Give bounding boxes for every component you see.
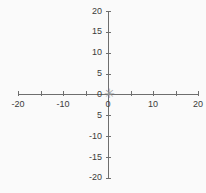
y-tick-label: -20 — [72, 173, 102, 182]
y-tick-label: 5 — [72, 69, 102, 78]
y-tick — [106, 157, 111, 158]
x-tick-label: -20 — [3, 100, 33, 109]
y-tick — [106, 136, 111, 137]
y-tick-label: 20 — [72, 7, 102, 16]
x-tick — [153, 91, 154, 96]
chart-figure: -20-1001020 201510505-10-15-20 ✳ — [0, 0, 206, 193]
y-tick-label: 15 — [72, 27, 102, 36]
x-tick — [198, 91, 199, 96]
x-tick — [176, 91, 177, 96]
y-tick-label: 5 — [72, 111, 102, 120]
data-point-marker: ✳ — [104, 87, 115, 100]
x-tick — [18, 91, 19, 96]
y-tick — [106, 115, 111, 116]
y-tick-label: 0 — [72, 90, 102, 99]
y-tick — [106, 11, 111, 12]
y-tick-label: -15 — [72, 153, 102, 162]
y-tick-label: 10 — [72, 48, 102, 57]
x-tick-label: -10 — [48, 100, 78, 109]
x-tick — [41, 91, 42, 96]
x-tick-label: 20 — [183, 100, 206, 109]
x-tick — [63, 91, 64, 96]
x-tick-label: 10 — [138, 100, 168, 109]
y-tick — [106, 53, 111, 54]
y-tick — [106, 74, 111, 75]
x-tick — [131, 91, 132, 96]
y-tick — [106, 32, 111, 33]
y-tick-label: -10 — [72, 132, 102, 141]
y-tick — [106, 178, 111, 179]
plot-panel — [0, 0, 206, 193]
x-tick-label: 0 — [93, 100, 123, 109]
